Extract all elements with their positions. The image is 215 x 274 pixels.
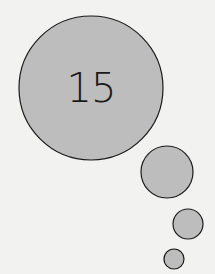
small-bubble bbox=[173, 209, 203, 239]
bubble-number: 15 bbox=[18, 12, 164, 164]
tiny-bubble bbox=[164, 249, 184, 269]
